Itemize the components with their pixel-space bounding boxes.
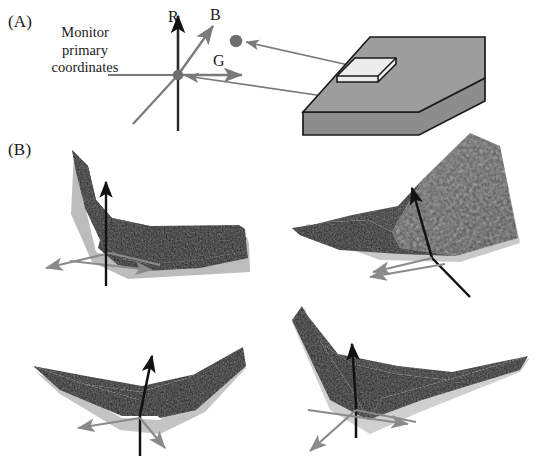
stimulus-dot (230, 35, 242, 47)
surface-view-bottom-left (33, 347, 246, 456)
rgb-axis-frame (108, 16, 242, 131)
surface-view-bottom-right (292, 306, 530, 451)
monitor-gamut-slab (303, 37, 485, 135)
axis-line-2a (432, 258, 470, 297)
surface-view-top-left (46, 150, 250, 286)
surface-view-top-right (292, 133, 520, 297)
axis-line-b-negative (133, 75, 178, 124)
connector-patch-to-dot (246, 42, 362, 68)
figure-vector-layer (0, 0, 547, 467)
figure-root: (A) Monitor primary coordinates R B G (0, 0, 547, 467)
panel-b-label: (B) (8, 140, 31, 160)
connector-slab-to-origin (186, 76, 330, 97)
axis-origin-dot (173, 70, 183, 80)
axis-arrow-b (178, 26, 213, 75)
